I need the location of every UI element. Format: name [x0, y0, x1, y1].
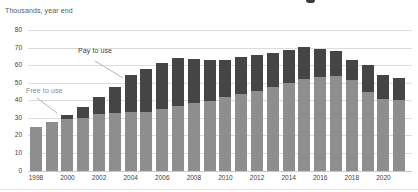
- bar-2005: [139, 30, 155, 171]
- bar-2004: [123, 30, 139, 171]
- x-tick-2000: 2000: [60, 174, 76, 181]
- y-tick-80: 80: [0, 26, 22, 34]
- series-label-free-to-use: Free to use: [26, 87, 63, 94]
- bar-2004-pay-segment: [125, 75, 137, 112]
- x-tick-2004: 2004: [123, 174, 139, 181]
- y-tick-0: 0: [0, 167, 22, 175]
- bar-2002-pay-segment: [93, 97, 105, 115]
- bar-2003-free-segment: [109, 113, 121, 171]
- bar-2019-pay-segment: [362, 65, 374, 92]
- x-tick-2003: [107, 174, 123, 181]
- bar-2008: [186, 30, 202, 171]
- bar-2007-free-segment: [172, 106, 184, 171]
- bar-2018-pay-segment: [346, 60, 358, 80]
- bar-2019: [360, 30, 376, 171]
- bar-2007-pay-segment: [172, 58, 184, 106]
- bar-2020-pay-segment: [377, 75, 389, 98]
- y-tick-60: 60: [0, 61, 22, 69]
- bar-2010: [218, 30, 234, 171]
- x-tick-1998: 1998: [28, 174, 44, 181]
- x-tick-2006: 2006: [154, 174, 170, 181]
- bottom-separator: [0, 189, 418, 190]
- y-tick-30: 30: [0, 114, 22, 122]
- bar-2011-free-segment: [235, 94, 247, 171]
- x-tick-1999: [44, 174, 60, 181]
- bar-1999: [44, 30, 60, 171]
- bar-2004-free-segment: [125, 112, 137, 171]
- bar-2012: [249, 30, 265, 171]
- bar-2006-free-segment: [156, 109, 168, 170]
- bar-1998-free-segment: [30, 127, 42, 170]
- bar-2015-free-segment: [298, 79, 310, 171]
- bar-1998: [28, 30, 44, 171]
- axis-units-note: Thousands, year end: [5, 7, 73, 14]
- bar-2000: [60, 30, 76, 171]
- bar-2020-free-segment: [377, 99, 389, 171]
- bar-2001-free-segment: [77, 118, 89, 171]
- bar-2008-pay-segment: [188, 59, 200, 103]
- cropped-title-fragment: [306, 0, 315, 3]
- bar-2017-free-segment: [330, 76, 342, 171]
- y-tick-70: 70: [0, 44, 22, 52]
- y-tick-10: 10: [0, 149, 22, 157]
- bar-2001-pay-segment: [77, 107, 89, 118]
- bar-2013-free-segment: [267, 87, 279, 170]
- x-tick-2001: [75, 174, 91, 181]
- bar-2017-pay-segment: [330, 51, 342, 76]
- bar-2021: [391, 30, 407, 171]
- bar-2007: [170, 30, 186, 171]
- bar-2006: [154, 30, 170, 171]
- x-tick-2013: [265, 174, 281, 181]
- bar-2021-pay-segment: [393, 78, 405, 100]
- bar-2013-pay-segment: [267, 53, 279, 87]
- x-tick-2010: 2010: [218, 174, 234, 181]
- x-tick-2020: 2020: [376, 174, 392, 181]
- bar-2011-pay-segment: [235, 57, 247, 94]
- bar-2018-free-segment: [346, 80, 358, 170]
- bar-2021-free-segment: [393, 100, 405, 171]
- bar-2009: [202, 30, 218, 171]
- bar-2017: [328, 30, 344, 171]
- x-tick-2014: 2014: [281, 174, 297, 181]
- x-tick-2017: [328, 174, 344, 181]
- bar-2008-free-segment: [188, 103, 200, 170]
- x-tick-2007: [170, 174, 186, 181]
- bar-2000-free-segment: [61, 119, 73, 171]
- y-tick-20: 20: [0, 131, 22, 139]
- bar-2003-pay-segment: [109, 87, 121, 112]
- y-tick-40: 40: [0, 96, 22, 104]
- bar-2016-free-segment: [314, 77, 326, 171]
- x-tick-2018: 2018: [344, 174, 360, 181]
- bar-2012-pay-segment: [251, 55, 263, 91]
- bar-2014-pay-segment: [283, 50, 295, 83]
- x-tick-2011: [233, 174, 249, 181]
- x-tick-2009: [202, 174, 218, 181]
- bar-2014-free-segment: [283, 83, 295, 170]
- bar-2018: [344, 30, 360, 171]
- bar-2005-pay-segment: [140, 69, 152, 112]
- bar-2010-free-segment: [219, 97, 231, 170]
- bar-2014: [281, 30, 297, 171]
- gridline-0: [28, 171, 412, 172]
- atm-stacked-bar-chart: Thousands, year end 01020304050607080 19…: [0, 0, 418, 192]
- bar-2019-free-segment: [362, 92, 374, 171]
- bar-2016: [312, 30, 328, 171]
- bar-2020: [376, 30, 392, 171]
- series-label-pay-to-use: Pay to use: [78, 47, 112, 54]
- y-tick-50: 50: [0, 79, 22, 87]
- x-tick-2005: [139, 174, 155, 181]
- bar-2011: [233, 30, 249, 171]
- bar-1999-free-segment: [46, 122, 58, 171]
- x-tick-2016: 2016: [312, 174, 328, 181]
- x-tick-2012: 2012: [249, 174, 265, 181]
- bar-2015-pay-segment: [298, 47, 310, 79]
- bar-2016-pay-segment: [314, 49, 326, 76]
- x-axis-tick-labels: 1998200020022004200620082010201220142016…: [28, 174, 407, 181]
- bar-2006-pay-segment: [156, 63, 168, 109]
- bar-2005-free-segment: [140, 112, 152, 171]
- x-tick-2008: 2008: [186, 174, 202, 181]
- x-tick-2021: [391, 174, 407, 181]
- bar-2013: [265, 30, 281, 171]
- x-tick-2019: [360, 174, 376, 181]
- bar-2010-pay-segment: [219, 60, 231, 97]
